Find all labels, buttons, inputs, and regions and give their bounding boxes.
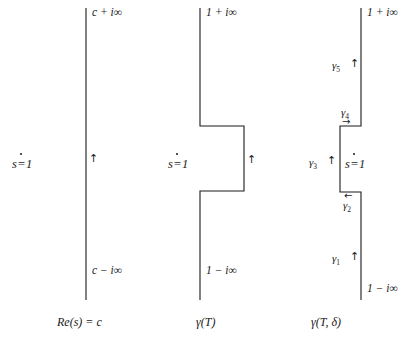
panel-3-arrow-gamma-5: ↑ <box>350 58 359 69</box>
panel-2-top-label: 1 + i∞ <box>206 7 237 19</box>
panel-1-top-label: c + i∞ <box>92 7 122 19</box>
panel-2-contour-path <box>200 8 244 300</box>
dotted-equals-icon: = <box>350 158 359 171</box>
panel-3-arrow-gamma-3: ↑ <box>327 155 336 166</box>
panel-2-caption: γ(T) <box>196 316 215 328</box>
panel-1-bottom-label: c − i∞ <box>92 265 122 277</box>
panel-1-pole-label: s=1 <box>12 158 32 171</box>
panel-2-pole-value: 1 <box>182 157 188 171</box>
gamma-3-index: 3 <box>313 162 317 171</box>
panel-2-relation: = <box>174 157 181 171</box>
panel-1-pole-value: 1 <box>26 157 32 171</box>
panel-1-caption: Re(s) = c <box>57 316 102 328</box>
dotted-equals-icon: = <box>17 158 26 171</box>
panel-2-bottom-label: 1 − i∞ <box>206 265 237 277</box>
panel-3-pole-value: 1 <box>359 157 365 171</box>
panel-3-segment-label-gamma-3: γ3 <box>309 157 317 171</box>
panel-3-caption: γ(T, δ) <box>311 316 341 328</box>
panel-1-relation: = <box>18 157 25 171</box>
panel-2-pole-label: s=1 <box>168 158 188 171</box>
panel-2-direction-arrow: ↑ <box>247 154 256 165</box>
panel-3-relation: = <box>351 157 358 171</box>
panel-3-pole-label: s=1 <box>345 158 365 171</box>
panel-3-top-label: 1 + i∞ <box>367 7 398 19</box>
gamma-5-index: 5 <box>336 65 340 74</box>
panel-3-segment-label-gamma-1: γ1 <box>332 253 340 267</box>
panel-3-bottom-label: 1 − i∞ <box>367 283 398 295</box>
dotted-equals-icon: = <box>173 158 182 171</box>
panel-3-arrow-gamma-4: → <box>342 117 350 127</box>
panel-3-segment-label-gamma-2: γ2 <box>343 200 351 214</box>
contour-diagram: c + i∞ ↑ s=1 c − i∞ Re(s) = c 1 + i∞ ↑ s… <box>0 0 418 345</box>
contour-paths <box>0 0 418 345</box>
panel-3-segment-label-gamma-5: γ5 <box>332 60 340 74</box>
panel-1-direction-arrow: ↑ <box>89 153 98 164</box>
gamma-1-index: 1 <box>336 258 340 267</box>
panel-3-arrow-gamma-1: ↑ <box>350 251 359 262</box>
gamma-2-index: 2 <box>347 205 351 214</box>
